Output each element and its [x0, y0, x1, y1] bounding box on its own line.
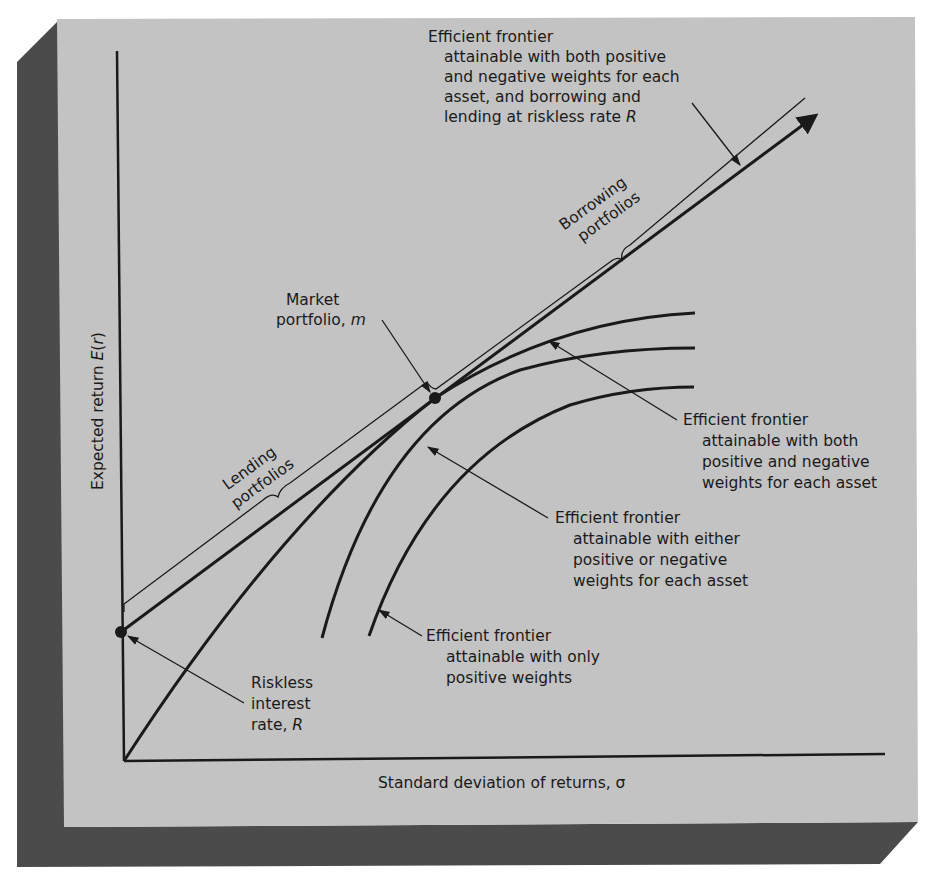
svg-text:Riskless: Riskless	[251, 674, 313, 692]
svg-text:weights for each asset: weights for each asset	[702, 474, 877, 492]
svg-text:Efficient frontier: Efficient frontier	[555, 509, 681, 527]
svg-text:attainable with both positive: attainable with both positive	[444, 48, 666, 66]
svg-text:Efficient frontier: Efficient frontier	[428, 28, 554, 46]
svg-text:attainable with only: attainable with only	[446, 648, 600, 666]
svg-text:and negative weights for each: and negative weights for each	[444, 68, 680, 86]
svg-text:attainable with both: attainable with both	[702, 432, 858, 450]
svg-text:positive weights: positive weights	[446, 669, 572, 687]
svg-text:attainable with either: attainable with either	[573, 530, 740, 548]
market-portfolio-point	[429, 392, 441, 404]
svg-text:rate, R: rate, R	[251, 716, 303, 734]
svg-text:interest: interest	[251, 695, 310, 713]
svg-text:Efficient frontier: Efficient frontier	[426, 627, 552, 645]
svg-text:weights for each asset: weights for each asset	[573, 572, 748, 590]
y-axis-label: Expected return E(r)	[89, 332, 107, 490]
x-axis-label: Standard deviation of returns, σ	[378, 774, 626, 792]
svg-text:portfolio, m: portfolio, m	[276, 311, 366, 329]
svg-text:lending at riskless rate R: lending at riskless rate R	[444, 108, 637, 126]
riskless-rate-point	[115, 626, 127, 638]
svg-text:Efficient frontier: Efficient frontier	[683, 411, 809, 429]
svg-text:positive or negative: positive or negative	[573, 551, 727, 569]
svg-text:Market: Market	[286, 291, 339, 309]
svg-text:positive and negative: positive and negative	[702, 453, 870, 471]
efficient-frontier-figure: Efficient frontier attainable with both …	[0, 0, 935, 886]
figure-canvas: Efficient frontier attainable with both …	[0, 0, 935, 886]
svg-text:asset, and borrowing and: asset, and borrowing and	[444, 88, 641, 106]
